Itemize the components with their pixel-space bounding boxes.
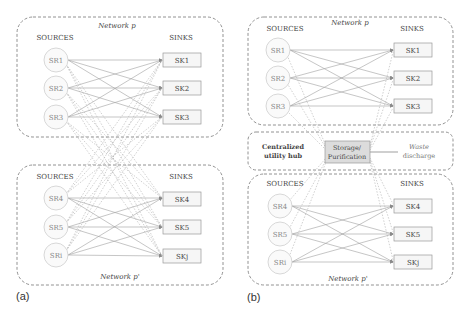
sinks-header: SINKS: [169, 34, 193, 42]
source-label: SR5: [273, 231, 288, 239]
network-p-title: Network p: [330, 19, 369, 27]
source-label: SR2: [271, 75, 286, 83]
sinks-header: SINKS: [169, 173, 193, 181]
waste-discharge-label: discharge: [403, 152, 436, 160]
hub-title: utility hub: [264, 152, 303, 160]
connections-bottom-a: [68, 198, 162, 256]
sink-label: SK2: [406, 75, 420, 83]
sink-label: SK3: [175, 114, 189, 122]
source-label: SR4: [273, 203, 288, 211]
panel-b-label: (b): [247, 291, 260, 303]
source-label: SRi: [274, 259, 287, 267]
sink-label: SKj: [176, 253, 188, 261]
source-label: SR1: [49, 57, 64, 65]
sink-label: SK4: [406, 203, 421, 211]
sink-label: SK5: [175, 224, 189, 232]
source-label: SR4: [49, 195, 64, 203]
panel-b: Network p SOURCES SINKS SR1 SR2 SR3 SK1 …: [247, 17, 453, 303]
network-p-title: Network p: [97, 22, 136, 30]
diagram-canvas: Network p SOURCES SINKS SR1 SR2 SR3 SK1 …: [0, 0, 469, 319]
network-p-prime-title: Network p': [327, 275, 368, 283]
sources-header: SOURCES: [37, 173, 74, 181]
source-label: SR1: [271, 47, 286, 55]
source-label: SRi: [50, 252, 63, 260]
sources-top-a: [44, 48, 68, 267]
sources-header: SOURCES: [37, 34, 74, 42]
storage-label: Purification: [328, 153, 366, 161]
hub-title: Centralized: [262, 143, 304, 151]
sink-label: SKj: [407, 259, 419, 267]
sinks-header: SINKS: [400, 180, 424, 188]
sink-label: SK4: [175, 196, 190, 204]
sink-label: SK1: [175, 57, 189, 65]
sink-label: SK1: [406, 47, 420, 55]
connections-top-a: [68, 60, 162, 117]
source-label: SR3: [49, 114, 64, 122]
source-label: SR3: [271, 103, 286, 111]
sink-label: SK5: [406, 231, 420, 239]
connections-bottom-b: [292, 206, 393, 262]
storage-label: Storage/: [333, 144, 362, 152]
panel-a-label: (a): [16, 290, 29, 302]
sources-header: SOURCES: [267, 25, 304, 33]
sinks-header: SINKS: [400, 25, 424, 33]
sink-label: SK3: [406, 103, 420, 111]
panel-a: Network p SOURCES SINKS SR1 SR2 SR3 SK1 …: [16, 17, 223, 302]
waste-discharge-label: Waste: [409, 143, 429, 151]
source-label: SR5: [49, 224, 64, 232]
source-label: SR2: [49, 85, 64, 93]
sink-label: SK2: [175, 85, 189, 93]
network-p-prime-title: Network p': [99, 273, 140, 281]
sources-header: SOURCES: [267, 180, 304, 188]
